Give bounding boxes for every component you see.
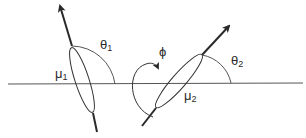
mu2-label: μ2	[184, 89, 197, 104]
dipole-2-ellipse	[151, 50, 207, 112]
diagram-graphics	[0, 0, 306, 138]
theta1-label: θ1	[100, 38, 112, 53]
dipole-1-arrow	[60, 6, 72, 46]
dipole-2	[142, 26, 229, 126]
dipole-1-tail	[93, 113, 97, 132]
horizontal-axis	[8, 83, 303, 84]
theta2-arc	[202, 55, 231, 83]
dipole-1-ellipse	[65, 46, 99, 115]
dipole-2-arrow	[202, 26, 229, 55]
phi-label: ϕ	[159, 45, 166, 58]
mu1-label: μ1	[55, 67, 68, 82]
theta2-label: θ2	[231, 54, 243, 69]
dipole-diagram: θ1 θ2 ϕ μ1 μ2	[0, 0, 306, 138]
dipole-2-tail	[142, 108, 156, 126]
